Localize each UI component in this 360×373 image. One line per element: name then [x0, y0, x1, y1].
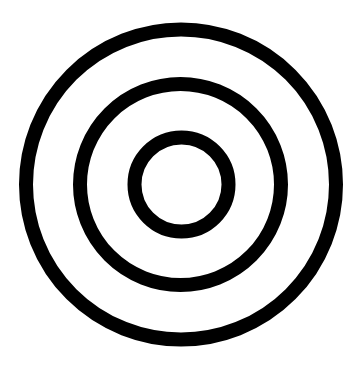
outer-ring: [26, 30, 336, 340]
concentric-circles-graphic: [0, 0, 360, 373]
middle-ring: [80, 84, 281, 285]
inner-ring: [135, 138, 229, 232]
